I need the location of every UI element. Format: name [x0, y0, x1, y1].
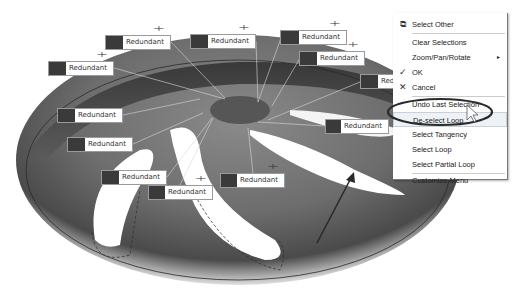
- callout-swatch: [106, 36, 123, 49]
- callout-swatch: [221, 174, 237, 187]
- callout-swatch: [191, 35, 208, 48]
- menu-item-cancel[interactable]: ✕ Cancel: [393, 80, 507, 95]
- menu-item-customize-menu[interactable]: Customize Menu: [393, 173, 507, 188]
- callout-label: Redundant: [341, 120, 388, 133]
- pin-icon[interactable]: ⊣⊢: [348, 41, 356, 49]
- callout-label: Redundant: [299, 31, 346, 44]
- callout-label: Redundant: [317, 52, 364, 65]
- callout-label: Redundant: [66, 62, 113, 75]
- callout-swatch: [361, 75, 378, 88]
- pin-icon[interactable]: ⊣⊢: [154, 25, 162, 33]
- callout-label: Redundant: [119, 171, 166, 184]
- callout-label: Redundant: [165, 186, 212, 199]
- callout-redundant[interactable]: Redundant ⊣⊢: [299, 51, 365, 66]
- callout-swatch: [281, 31, 299, 44]
- menu-item-deselect-loop[interactable]: De-select Loop: [393, 112, 507, 127]
- menu-item-select-partial-loop[interactable]: Select Partial Loop: [393, 157, 507, 172]
- callout-redundant[interactable]: Redundant ⊣⊢: [148, 185, 213, 200]
- callout-redundant[interactable]: Redundant: [325, 119, 389, 134]
- callout-label: Redundant: [237, 174, 284, 187]
- callout-redundant[interactable]: Redundant ⊣⊢: [105, 35, 171, 50]
- callout-redundant[interactable]: Redundant: [67, 137, 133, 152]
- submenu-arrow-icon: ▸: [497, 50, 500, 65]
- pin-icon[interactable]: ⊣⊢: [239, 24, 247, 32]
- callout-swatch: [300, 52, 317, 65]
- menu-item-undo-last-selection[interactable]: Undo Last Selection: [393, 97, 507, 112]
- callout-label: Redundant: [75, 109, 122, 122]
- callout-redundant[interactable]: Redundant ⊣⊢: [48, 61, 114, 76]
- callout-redundant[interactable]: Redundant ⊣⊢: [190, 34, 256, 49]
- callout-swatch: [149, 186, 165, 199]
- callout-swatch: [68, 138, 85, 151]
- menu-item-ok[interactable]: ✓ OK: [393, 65, 507, 80]
- menu-separator: [412, 33, 505, 34]
- menu-item-select-loop[interactable]: Select Loop: [393, 142, 507, 157]
- pin-icon[interactable]: ⊣⊢: [97, 51, 105, 59]
- callout-redundant[interactable]: Redundant: [101, 170, 167, 185]
- callout-label: Redundant: [85, 138, 132, 151]
- callout-swatch: [326, 120, 341, 133]
- callout-swatch: [49, 62, 66, 75]
- callout-redundant[interactable]: Redundant: [57, 108, 123, 123]
- callout-redundant[interactable]: Redundant ⊣⊢: [280, 30, 347, 45]
- menu-item-select-other[interactable]: ⧉ Select Other: [393, 17, 507, 32]
- menu-item-select-tangency[interactable]: Select Tangency: [393, 127, 507, 142]
- context-menu: ⧉ Select Other Clear Selections Zoom/Pan…: [393, 13, 508, 180]
- menu-item-clear-selections[interactable]: Clear Selections: [393, 35, 507, 50]
- check-icon: ✓: [397, 65, 409, 80]
- close-icon: ✕: [397, 80, 409, 95]
- menu-item-zoom-pan-rotate[interactable]: Zoom/Pan/Rotate ▸: [393, 50, 507, 65]
- callout-swatch: [58, 109, 75, 122]
- pin-icon[interactable]: ⊣⊢: [196, 175, 204, 183]
- callout-swatch: [102, 171, 119, 184]
- callout-redundant[interactable]: Redundant ⊣⊢: [220, 173, 285, 188]
- callout-label: Redundant: [123, 36, 170, 49]
- pin-icon[interactable]: ⊣⊢: [330, 20, 338, 28]
- select-other-icon: ⧉: [397, 17, 409, 32]
- pin-icon[interactable]: ⊣⊢: [268, 163, 276, 171]
- callout-label: Redundant: [208, 35, 255, 48]
